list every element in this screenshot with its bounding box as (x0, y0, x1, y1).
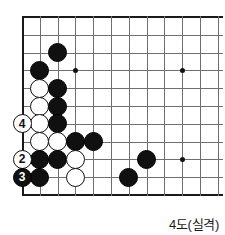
grid-line-vertical (147, 16, 148, 196)
stone-black[interactable] (48, 97, 67, 116)
stone-black[interactable] (84, 132, 103, 151)
stone-black[interactable] (66, 132, 85, 151)
stone-white[interactable] (30, 79, 49, 98)
stone-white[interactable] (66, 150, 85, 169)
grid-line-vertical (182, 16, 183, 196)
stone-white[interactable] (66, 168, 85, 187)
grid-line-horizontal (22, 35, 223, 36)
grid-line-horizontal (22, 16, 223, 18)
star-point (73, 68, 78, 73)
stone-black[interactable] (48, 114, 67, 133)
move-number-label: 3 (19, 171, 26, 183)
stone-white[interactable] (30, 97, 49, 116)
star-point (180, 157, 185, 162)
stone-white[interactable] (48, 132, 67, 151)
stone-black[interactable] (48, 43, 67, 62)
move-stone-3[interactable]: 3 (13, 168, 32, 187)
grid-line-horizontal (22, 70, 223, 71)
stone-black[interactable] (30, 61, 49, 80)
go-diagram-root: 423 4도(실격) (0, 0, 225, 235)
stone-black[interactable] (119, 168, 138, 187)
move-number-label: 4 (19, 118, 26, 130)
diagram-caption: 4도(실격) (169, 214, 219, 233)
stone-white[interactable] (30, 114, 49, 133)
grid-line-vertical (164, 16, 165, 196)
grid-line-vertical (111, 16, 112, 196)
stone-black[interactable] (48, 150, 67, 169)
stone-black[interactable] (48, 79, 67, 98)
grid-line-vertical (218, 16, 219, 196)
go-board[interactable]: 423 (0, 0, 225, 215)
grid-line-horizontal (22, 194, 223, 196)
grid-line-vertical (93, 16, 94, 196)
stone-white[interactable] (30, 132, 49, 151)
move-stone-2[interactable]: 2 (13, 150, 32, 169)
move-number-label: 2 (19, 153, 26, 165)
move-stone-4[interactable]: 4 (13, 114, 32, 133)
stone-black[interactable] (137, 150, 156, 169)
stone-black[interactable] (30, 150, 49, 169)
grid-line-vertical (200, 16, 201, 196)
star-point (180, 68, 185, 73)
stone-black[interactable] (30, 168, 49, 187)
